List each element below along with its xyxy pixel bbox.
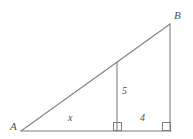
vertex-label-B: B (174, 10, 181, 21)
right-angle-at-C-icon (163, 123, 171, 131)
segment-hypotenuse-AB (21, 24, 170, 131)
measure-label-altitude: 5 (122, 86, 127, 96)
measure-label-base-right: 4 (140, 113, 145, 123)
vertex-label-A: A (10, 121, 17, 132)
figure-canvas (0, 0, 193, 139)
measure-label-base-left: x (68, 113, 72, 123)
geometry-figure: A B x 5 4 (0, 0, 193, 139)
